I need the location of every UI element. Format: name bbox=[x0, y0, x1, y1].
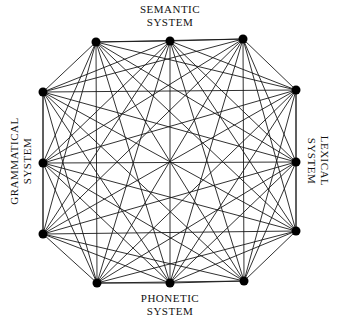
edge-r2-b3 bbox=[244, 162, 296, 281]
edge-t3-l1 bbox=[43, 39, 243, 92]
edge-r2-b1 bbox=[97, 162, 296, 283]
edge-t3-l2 bbox=[43, 39, 243, 163]
node-lexical-r2 bbox=[292, 158, 301, 167]
edge-b2-l1 bbox=[43, 92, 170, 283]
lexical-system-label: LEXICAL SYSTEM bbox=[305, 111, 331, 211]
node-grammatical-l2 bbox=[39, 159, 48, 168]
edges-layer bbox=[43, 39, 296, 283]
edge-t1-r2 bbox=[96, 42, 296, 162]
node-grammatical-l3 bbox=[39, 230, 48, 239]
grammatical-system-label: GRAMMATICAL SYSTEM bbox=[8, 111, 34, 211]
edge-r1-l1 bbox=[43, 90, 296, 92]
node-phonetic-b3 bbox=[240, 277, 249, 286]
edge-b3-l1 bbox=[43, 92, 244, 281]
label-line: LEXICAL bbox=[318, 111, 331, 211]
label-line: SYSTEM bbox=[21, 111, 34, 211]
edge-t1-l1 bbox=[43, 42, 96, 92]
edge-b1-l3 bbox=[43, 234, 97, 283]
node-semantic-t1 bbox=[92, 38, 101, 47]
edge-r1-b2 bbox=[170, 90, 296, 283]
label-line: SYSTEM bbox=[120, 305, 220, 318]
node-phonetic-b2 bbox=[166, 279, 175, 288]
edge-b2-l3 bbox=[43, 234, 170, 283]
edge-r3-b1 bbox=[97, 231, 296, 283]
node-phonetic-b1 bbox=[93, 279, 102, 288]
node-lexical-r3 bbox=[292, 227, 301, 236]
node-lexical-r1 bbox=[292, 86, 301, 95]
label-line: SEMANTIC bbox=[120, 3, 220, 16]
phonetic-system-label: PHONETIC SYSTEM bbox=[120, 292, 220, 318]
node-semantic-t3 bbox=[239, 35, 248, 44]
complete-graph-diagram bbox=[0, 0, 339, 321]
label-line: GRAMMATICAL bbox=[8, 111, 21, 211]
edge-b1-l1 bbox=[43, 92, 97, 283]
edge-b3-l2 bbox=[43, 163, 244, 281]
edge-t3-r1 bbox=[243, 39, 296, 90]
edge-r3-b3 bbox=[244, 231, 296, 281]
label-line: PHONETIC bbox=[120, 292, 220, 305]
edge-t3-r2 bbox=[243, 39, 296, 162]
label-line: SYSTEM bbox=[120, 16, 220, 29]
edge-b1-l2 bbox=[43, 163, 97, 283]
edge-t1-l2 bbox=[43, 42, 96, 163]
label-line: SYSTEM bbox=[305, 111, 318, 211]
node-semantic-t2 bbox=[166, 37, 175, 46]
node-grammatical-l1 bbox=[39, 88, 48, 97]
edge-r1-b3 bbox=[244, 90, 296, 281]
edge-r3-l1 bbox=[43, 92, 296, 231]
edge-r2-l2 bbox=[43, 162, 296, 163]
edge-r3-b2 bbox=[170, 231, 296, 283]
edge-r3-l3 bbox=[43, 231, 296, 234]
semantic-system-label: SEMANTIC SYSTEM bbox=[120, 3, 220, 29]
